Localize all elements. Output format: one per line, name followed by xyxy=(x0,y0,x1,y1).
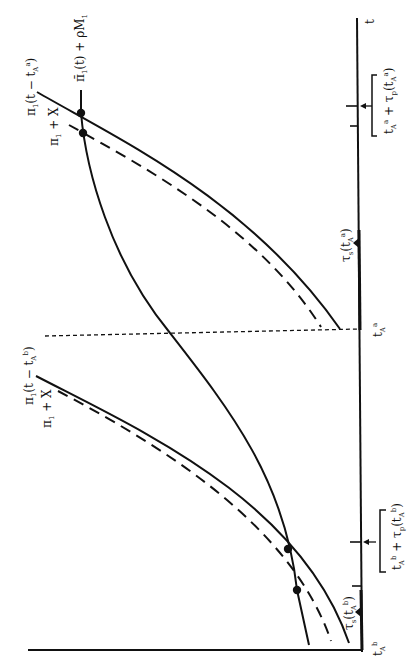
label-bracket-b: tAb + τp(tAb) xyxy=(388,503,408,570)
intersection-dot xyxy=(293,586,301,594)
bracket-a xyxy=(372,75,377,136)
curve-pibar-rhoM xyxy=(81,90,309,645)
intersection-dot xyxy=(77,109,85,117)
time-axis-thick-a xyxy=(359,230,360,330)
label-tAb: tAb xyxy=(369,642,389,656)
label-bracket-a: tAa + τp(tAa) xyxy=(380,68,400,134)
label-pibar-rhoM: π̄1(t) + ρM1 xyxy=(74,14,91,82)
dotted-line-tAa xyxy=(45,329,360,336)
arrow-head-icon xyxy=(363,539,369,545)
curve-pi1-plus-x-b xyxy=(58,391,331,641)
intersection-dot xyxy=(284,545,292,553)
label-pi1-shift-a: π1(t − tAa) xyxy=(22,58,42,116)
bracket-b xyxy=(380,510,386,572)
axis-label-t: t xyxy=(364,19,376,24)
label-pi1-shift-b: π1(t − tAb) xyxy=(20,346,40,405)
label-tau-s-a: τs(tAa) xyxy=(337,228,357,262)
label-pi1-plus-x-b: π1 + X xyxy=(41,389,58,428)
label-pi1-plus-x-a: π1 + X xyxy=(48,107,65,146)
arrow-head-icon xyxy=(360,103,366,109)
time-axis xyxy=(357,18,362,652)
label-tau-s-b: τs(tAb) xyxy=(340,596,360,630)
curve-pi1-plus-x-a xyxy=(69,125,321,327)
curve-pi1-shift-b xyxy=(36,376,349,643)
diagram-canvas xyxy=(0,0,413,656)
time-axis-thick-b xyxy=(361,590,362,650)
label-tAa: tAa xyxy=(369,323,389,337)
intersection-dot xyxy=(79,129,87,137)
